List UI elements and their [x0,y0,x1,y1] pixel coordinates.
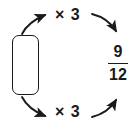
arrow-bottom-left-icon [22,97,45,116]
arrow-bottom-right-icon [92,100,116,117]
numerator-operation-label: × 3 [55,7,81,23]
blank-fraction-box[interactable] [12,35,39,95]
equivalent-fraction-diagram: × 3 × 3 9 12 [0,0,136,131]
result-fraction: 9 12 [104,44,132,83]
fraction-numerator: 9 [104,44,132,62]
arrow-top-right-icon [92,14,116,31]
denominator-operation-label: × 3 [55,104,81,120]
fraction-denominator: 12 [104,64,132,83]
arrow-top-left-icon [22,15,45,34]
